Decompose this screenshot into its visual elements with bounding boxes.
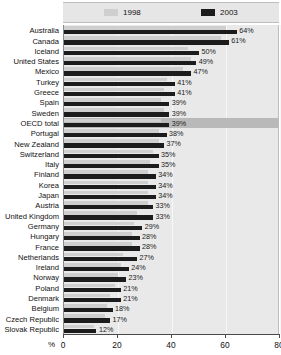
bar-2003 [64, 82, 175, 86]
chart-row: 39% [64, 118, 278, 128]
category-label: Belgium [32, 304, 59, 313]
legend-item-1998: 1998 [104, 7, 141, 18]
bar-value-label: 21% [123, 284, 137, 293]
category-label: Australia [29, 26, 59, 35]
legend-label-2003: 2003 [220, 8, 238, 17]
bar-2003 [64, 102, 169, 106]
x-axis-tick [63, 334, 64, 338]
bar-value-label: 29% [145, 222, 159, 231]
category-label: Slovak Republic [5, 325, 59, 334]
bar-value-label: 33% [156, 201, 170, 210]
bar-value-label: 17% [112, 315, 126, 324]
bar-2003 [64, 51, 199, 55]
chart-row: 61% [64, 35, 278, 45]
gridline [280, 25, 281, 334]
category-label: Portugal [31, 129, 59, 138]
bar-2003 [64, 92, 175, 96]
x-axis-tick-label: 0 [61, 340, 66, 350]
bar-2003 [64, 61, 196, 65]
chart-row: 41% [64, 77, 278, 87]
x-axis-tick-label: 80 [274, 340, 281, 350]
category-label: Japan [38, 191, 59, 200]
chart-row: 35% [64, 149, 278, 159]
bar-value-label: 24% [131, 263, 145, 272]
category-label: Netherlands [18, 253, 59, 262]
bar-value-label: 47% [193, 67, 207, 76]
x-axis-tick [117, 334, 118, 338]
chart-row: 34% [64, 169, 278, 179]
x-axis-tick-label: 40 [166, 340, 175, 350]
category-label: France [35, 243, 59, 252]
bar-value-label: 39% [172, 109, 186, 118]
bar-value-label: 41% [177, 78, 191, 87]
bar-value-label: 39% [172, 119, 186, 128]
category-label: Spain [40, 98, 59, 107]
chart-row: 28% [64, 231, 278, 241]
chart-legend: 1998 2003 [63, 2, 279, 23]
chart-row: 64% [64, 25, 278, 35]
chart-row: 23% [64, 272, 278, 282]
bar-value-label: 34% [158, 170, 172, 179]
chart-row: 34% [64, 180, 278, 190]
bar-value-label: 12% [99, 325, 113, 334]
bar-2003 [64, 123, 169, 127]
bar-value-label: 35% [161, 160, 175, 169]
bar-2003 [64, 236, 140, 240]
bar-2003 [64, 288, 121, 292]
x-axis-tick-label: 60 [220, 340, 229, 350]
chart-row: 35% [64, 159, 278, 169]
bar-2003 [64, 277, 126, 281]
category-label: Hungary [30, 232, 59, 241]
chart-row: 50% [64, 46, 278, 56]
bar-value-label: 61% [231, 36, 245, 45]
chart-row: 34% [64, 190, 278, 200]
chart-row: 33% [64, 200, 278, 210]
x-axis-tick-label: 20 [112, 340, 121, 350]
category-label: Ireland [36, 263, 59, 272]
bar-2003 [64, 318, 110, 322]
legend-swatch-2003-icon [201, 9, 215, 16]
bar-value-label: 28% [142, 242, 156, 251]
bar-value-label: 27% [139, 253, 153, 262]
bar-2003 [64, 71, 191, 75]
category-axis-labels: AustraliaCanadaIcelandUnited StatesMexic… [0, 25, 61, 334]
plot-area: 64%61%50%49%47%41%41%39%39%39%38%37%35%3… [63, 25, 279, 334]
bar-2003 [64, 164, 159, 168]
chart-row: 41% [64, 87, 278, 97]
bar-value-label: 37% [166, 139, 180, 148]
category-label: Korea [39, 181, 59, 190]
bar-value-label: 34% [158, 191, 172, 200]
bar-value-label: 33% [156, 212, 170, 221]
category-label: Poland [35, 284, 59, 293]
category-label: Germany [28, 222, 59, 231]
category-label: Austria [35, 201, 59, 210]
bar-value-label: 18% [115, 304, 129, 313]
bar-value-label: 34% [158, 181, 172, 190]
bar-2003 [64, 143, 164, 147]
chart-row: 37% [64, 138, 278, 148]
category-label: Finland [34, 170, 59, 179]
bar-value-label: 35% [161, 150, 175, 159]
category-label: Iceland [35, 47, 60, 56]
chart-row: 12% [64, 324, 278, 334]
bar-2003 [64, 133, 167, 137]
legend-swatch-1998-icon [104, 9, 118, 16]
bar-2003 [64, 298, 121, 302]
chart-row: 24% [64, 262, 278, 272]
bar-2003 [64, 174, 156, 178]
bar-value-label: 49% [199, 57, 213, 66]
chart-row: 29% [64, 221, 278, 231]
category-label: Turkey [36, 78, 59, 87]
category-label: Switzerland [20, 150, 59, 159]
bar-2003 [64, 226, 142, 230]
chart-row: 49% [64, 56, 278, 66]
chart-row: 21% [64, 283, 278, 293]
bar-value-label: 28% [142, 232, 156, 241]
bar-2003 [64, 267, 129, 271]
bar-2003 [64, 154, 159, 158]
category-label: Czech Republic [6, 315, 59, 324]
category-label: Norway [33, 273, 59, 282]
bar-2003 [64, 30, 237, 34]
bar-value-label: 64% [239, 26, 253, 35]
bar-2003 [64, 195, 156, 199]
